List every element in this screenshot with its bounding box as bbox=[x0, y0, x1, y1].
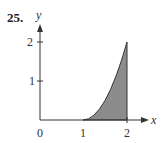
y-tick-label-1: 1 bbox=[29, 74, 35, 88]
y-axis-arrow-icon bbox=[37, 24, 43, 32]
origin-label: 0 bbox=[37, 126, 43, 140]
y-axis-label: y bbox=[35, 8, 42, 22]
y-tick-label-2: 2 bbox=[27, 35, 33, 49]
x-axis-label: x bbox=[150, 113, 157, 127]
x-tick-label-2: 2 bbox=[124, 126, 130, 140]
x-axis-arrow-icon bbox=[141, 117, 149, 123]
shaded-region bbox=[83, 42, 127, 120]
plot: y x 2 1 0 1 2 bbox=[0, 0, 168, 143]
x-tick-label-1: 1 bbox=[80, 126, 86, 140]
